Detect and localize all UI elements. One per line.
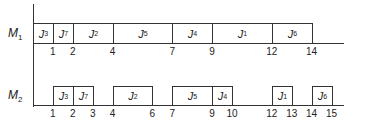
tick-label: 1 [50, 108, 56, 119]
tick-label: 12 [266, 108, 277, 119]
job-block: J5 [172, 86, 213, 106]
job-block: J4 [172, 23, 213, 44]
job-subscript: 2 [134, 93, 138, 100]
tick-label: 7 [170, 108, 176, 119]
job-subscript: 1 [283, 93, 287, 100]
job-block: J2 [73, 23, 114, 44]
job-block: J7 [73, 86, 94, 106]
job-subscript: 7 [64, 30, 68, 37]
machine-label-2: M2 [8, 88, 22, 104]
tick-label: 6 [150, 108, 156, 119]
job-subscript: 4 [223, 93, 227, 100]
job-subscript: 2 [94, 30, 98, 37]
job-subscript: 5 [144, 30, 148, 37]
vertical-axis [33, 4, 34, 107]
tick-label: 15 [326, 108, 337, 119]
tick-label: 9 [209, 46, 215, 57]
job-subscript: 6 [293, 30, 297, 37]
tick-label: 14 [306, 46, 317, 57]
job-subscript: 5 [193, 93, 197, 100]
machine-name: M [8, 26, 18, 40]
tick-label: 2 [70, 46, 76, 57]
job-block: J1 [272, 86, 293, 106]
job-subscript: 7 [84, 93, 88, 100]
tick-label: 13 [286, 108, 297, 119]
job-block: J4 [212, 86, 233, 106]
job-subscript: 3 [44, 30, 48, 37]
machine-subscript: 2 [18, 95, 22, 104]
tick-label: 10 [226, 108, 237, 119]
tick-label: 9 [209, 108, 215, 119]
tick-label: 12 [266, 46, 277, 57]
tick-label: 3 [90, 108, 96, 119]
machine-name: M [8, 88, 18, 102]
machine-label-1: M1 [8, 26, 22, 42]
machine-subscript: 1 [18, 33, 22, 42]
tick-label: 4 [110, 108, 116, 119]
tick-label: 4 [110, 46, 116, 57]
tick-label: 2 [70, 108, 76, 119]
job-block: J3 [33, 23, 54, 44]
job-subscript: 6 [323, 93, 327, 100]
job-block: J6 [312, 86, 333, 106]
job-block: J1 [212, 23, 273, 44]
job-block: J3 [53, 86, 74, 106]
job-subscript: 3 [64, 93, 68, 100]
job-subscript: 4 [193, 30, 197, 37]
job-subscript: 1 [243, 30, 247, 37]
tick-label: 1 [50, 46, 56, 57]
tick-label: 14 [306, 108, 317, 119]
tick-label: 7 [170, 46, 176, 57]
job-block: J2 [113, 86, 153, 106]
job-block: J7 [53, 23, 74, 44]
job-block: J6 [272, 23, 313, 44]
job-block: J5 [113, 23, 173, 44]
